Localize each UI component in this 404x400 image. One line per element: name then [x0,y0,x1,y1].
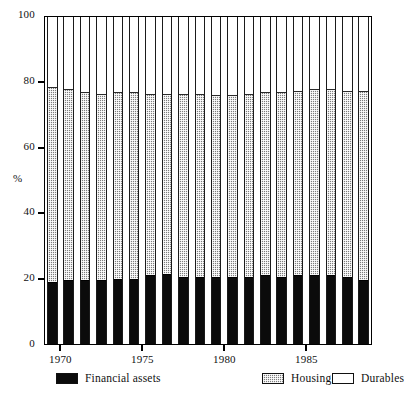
segment-housing [277,92,286,277]
segment-financial-assets [277,277,286,344]
segment-durables [343,17,352,91]
bar-1987 [326,17,337,344]
segment-durables [196,17,205,94]
bar-1989 [358,17,369,344]
bar-1973 [96,17,107,344]
bar-1975 [129,17,140,344]
segment-financial-assets [48,282,57,344]
segment-financial-assets [81,280,90,344]
segment-financial-assets [261,275,270,344]
segment-housing [130,92,139,278]
x-tick-mark-1985 [305,345,307,351]
segment-housing [359,91,368,281]
segment-housing [163,94,172,274]
segment-financial-assets [114,279,123,344]
segment-durables [277,17,286,92]
segment-housing [228,95,237,276]
segment-financial-assets [245,277,254,344]
x-tick-mark-1970 [59,345,61,351]
empty-white-swatch [332,373,354,384]
x-tick-mark-1980 [223,345,225,351]
y-tick-label-60: 60 [24,140,35,152]
x-tick-mark-1975 [141,345,143,351]
bar-1978 [178,17,189,344]
segment-financial-assets [359,280,368,344]
y-tick-label-80: 80 [24,74,35,86]
bar-group [45,17,371,344]
segment-durables [146,17,155,94]
segment-housing [245,94,254,277]
segment-financial-assets [163,274,172,344]
bar-1979 [195,17,206,344]
segment-durables [114,17,123,92]
segment-durables [245,17,254,94]
segment-housing [343,91,352,277]
y-tick-label-40: 40 [24,205,35,217]
segment-durables [327,17,336,89]
segment-financial-assets [327,275,336,344]
segment-durables [130,17,139,92]
segment-durables [261,17,270,92]
bar-1988 [342,17,353,344]
x-tick-label-1970: 1970 [49,353,72,365]
segment-durables [64,17,73,89]
x-tick-label-1985: 1985 [295,353,318,365]
legend-item-housing: Housing [262,372,331,384]
segment-financial-assets [212,277,221,344]
segment-financial-assets [64,280,73,344]
y-tick-label-0: 0 [29,337,35,349]
legend-label-financial-assets: Financial assets [85,372,161,384]
segment-durables [359,17,368,91]
plot-area [44,16,372,345]
segment-housing [114,92,123,278]
legend-label-durables: Durables [361,372,404,384]
bar-1984 [276,17,287,344]
segment-durables [228,17,237,95]
segment-housing [179,94,188,277]
bar-1976 [145,17,156,344]
bar-1981 [227,17,238,344]
bar-1974 [113,17,124,344]
bar-1982 [244,17,255,344]
segment-financial-assets [343,277,352,344]
segment-financial-assets [146,275,155,344]
bar-1986 [309,17,320,344]
segment-housing [310,89,319,275]
legend-item-financial-assets: Financial assets [56,372,161,384]
bar-1980 [211,17,222,344]
segment-housing [81,92,90,280]
x-tick-label-1980: 1980 [213,353,236,365]
bar-1970 [47,17,58,344]
segment-durables [81,17,90,92]
segment-housing [64,89,73,280]
segment-financial-assets [228,277,237,344]
bar-1985 [293,17,304,344]
segment-financial-assets [97,280,106,344]
segment-durables [294,17,303,91]
chart-legend: Financial assetsHousingDurables [44,372,374,392]
segment-financial-assets [179,277,188,344]
y-axis-title: % [13,172,22,184]
segment-durables [179,17,188,94]
segment-durables [97,17,106,94]
segment-durables [163,17,172,94]
solid-black-swatch [56,373,78,384]
segment-financial-assets [310,275,319,344]
y-tick-label-100: 100 [18,8,35,20]
segment-housing [212,95,221,276]
segment-durables [310,17,319,89]
legend-label-housing: Housing [291,372,331,384]
segment-housing [261,92,270,275]
bar-1983 [260,17,271,344]
segment-housing [48,87,57,282]
segment-housing [97,94,106,280]
bar-1977 [162,17,173,344]
segment-durables [48,17,57,87]
segment-housing [196,94,205,277]
y-tick-label-20: 20 [24,271,35,283]
x-tick-label-1975: 1975 [131,353,154,365]
legend-item-durables: Durables [332,372,404,384]
segment-financial-assets [196,277,205,344]
segment-financial-assets [130,279,139,344]
